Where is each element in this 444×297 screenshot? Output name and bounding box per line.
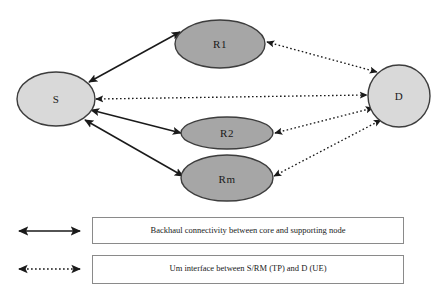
node-r1-label: R1 [213,38,227,50]
legend-label-backhaul: Backhaul connectivity between core and s… [151,225,346,235]
link-r2-d[interactable] [275,108,373,133]
link-s-d[interactable] [96,95,367,99]
node-rm[interactable]: Rm [181,155,273,201]
legend-label-um-interface: Um interface between S/RM (TP) and D (UE… [170,263,327,273]
node-d[interactable]: D [368,65,430,127]
link-s-r1[interactable] [89,32,180,82]
node-group: S R1 R2 Rm D [17,20,430,201]
legend-item-um-interface[interactable]: Um interface between S/RM (TP) and D (UE… [19,256,404,284]
link-rm-d[interactable] [274,120,381,176]
node-r2[interactable]: R2 [181,117,273,149]
legend: Backhaul connectivity between core and s… [19,218,404,284]
network-diagram-canvas: S R1 R2 Rm D [0,0,444,297]
node-rm-label: Rm [219,173,236,185]
node-s[interactable]: S [17,72,95,126]
node-r1[interactable]: R1 [175,20,265,68]
link-s-r2[interactable] [91,110,181,133]
network-diagram: S R1 R2 Rm D [0,0,444,297]
legend-item-backhaul[interactable]: Backhaul connectivity between core and s… [19,218,404,244]
node-d-label: D [395,90,403,102]
link-r1-d[interactable] [267,42,377,72]
link-s-rm[interactable] [85,120,183,176]
node-s-label: S [53,93,60,105]
node-r2-label: R2 [220,127,234,139]
